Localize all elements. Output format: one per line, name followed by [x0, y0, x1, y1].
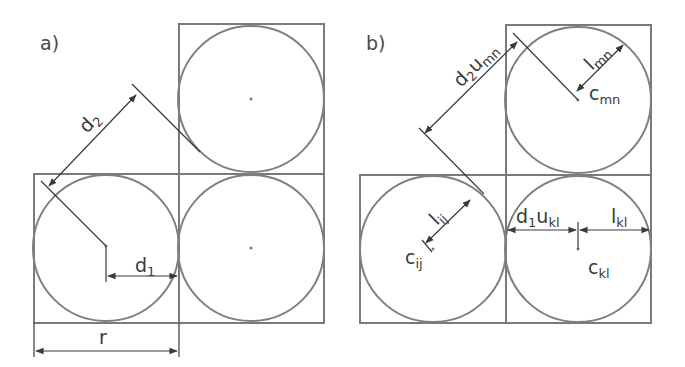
- d2-extension-line-right: [132, 84, 200, 152]
- panel-a-label: a): [40, 32, 59, 54]
- center-dot: [250, 247, 253, 250]
- d1u-label: d1ukl: [516, 205, 560, 230]
- d2-dimension-arrow: [49, 95, 136, 186]
- cij-label: cij: [405, 246, 423, 271]
- panel-b: b) d2umn lmn cmn lij: [360, 25, 651, 323]
- d1-label: d1: [135, 254, 155, 279]
- diagram-canvas: a) d2 d1 r b): [0, 0, 685, 367]
- center-dot: [250, 98, 253, 101]
- lkl-label: lkl: [611, 205, 627, 230]
- cmn-label: cmn: [589, 82, 620, 107]
- d2u-extension-line-right: [513, 33, 578, 100]
- panel-a: a) d2 d1 r: [33, 24, 324, 357]
- d2-extension-line-left: [41, 181, 106, 246]
- panel-b-label: b): [366, 32, 385, 54]
- r-label: r: [99, 326, 107, 348]
- d2u-extension-line-left: [419, 128, 484, 194]
- d2u-label: d2umn: [448, 38, 503, 93]
- center-dot-cij: [432, 248, 435, 251]
- d2-label: d2: [74, 107, 106, 139]
- lij-label: lij: [424, 204, 451, 231]
- ckl-label: ckl: [588, 256, 610, 281]
- lmn-label: lmn: [579, 40, 615, 76]
